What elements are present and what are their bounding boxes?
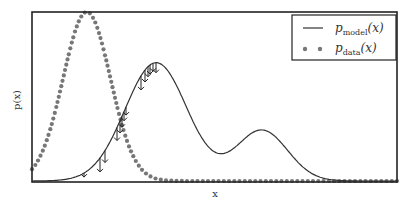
pdata-point bbox=[65, 57, 69, 61]
pdata-point bbox=[33, 163, 37, 167]
pdata-point bbox=[79, 14, 83, 18]
pdata-point bbox=[38, 154, 42, 158]
down-arrow-icon bbox=[153, 63, 159, 73]
pdata-point bbox=[71, 35, 75, 39]
pdata-point bbox=[153, 176, 157, 180]
pdata-point bbox=[51, 117, 55, 121]
pdata-point bbox=[148, 174, 152, 178]
pdata-point bbox=[46, 133, 50, 137]
down-arrow-icon bbox=[114, 128, 120, 141]
pdata-point bbox=[117, 112, 121, 116]
pdata-point bbox=[159, 178, 163, 182]
pdata-point bbox=[73, 29, 77, 33]
down-arrow-icon bbox=[102, 151, 108, 163]
legend-data-arg: (x) bbox=[361, 41, 377, 55]
pdata-point bbox=[144, 171, 148, 175]
pdata-point bbox=[129, 149, 133, 153]
pdata-point bbox=[54, 105, 58, 109]
pdata-point bbox=[68, 46, 72, 50]
pdata-point bbox=[62, 73, 66, 77]
pdata-point bbox=[113, 96, 117, 100]
pdata-point bbox=[53, 111, 57, 115]
pdata-point bbox=[50, 122, 54, 126]
pdata-point bbox=[107, 69, 111, 73]
pdata-point bbox=[48, 127, 52, 131]
pdata-point bbox=[112, 91, 116, 95]
pdata-point bbox=[127, 144, 131, 148]
legend-data-dot-icon bbox=[303, 47, 307, 51]
pdata-point bbox=[58, 89, 62, 93]
pdata-point bbox=[36, 158, 40, 162]
pdata-point bbox=[70, 41, 74, 45]
pdata-point bbox=[63, 68, 67, 72]
pdata-point bbox=[103, 53, 107, 57]
pdata-point bbox=[101, 47, 105, 51]
pdata-point bbox=[59, 84, 63, 88]
legend: pmodel(x) pdata(x) bbox=[292, 15, 396, 60]
legend-model-arg: (x) bbox=[368, 21, 384, 35]
pdata-point bbox=[108, 74, 112, 78]
pdata-point bbox=[123, 134, 127, 138]
pdata-point bbox=[95, 26, 99, 30]
pdata-point bbox=[98, 36, 102, 40]
pdata-point bbox=[67, 52, 71, 56]
pdata-point bbox=[110, 85, 114, 89]
pdata-point bbox=[57, 95, 61, 99]
x-axis-label: x bbox=[212, 188, 218, 199]
pdata-point bbox=[131, 154, 135, 158]
pdata-point bbox=[100, 41, 104, 45]
pdata-point bbox=[125, 139, 129, 143]
pdata-point bbox=[64, 63, 68, 67]
y-axis-label: p(x) bbox=[11, 90, 22, 110]
pdata-point bbox=[105, 64, 109, 68]
legend-model-sub: model bbox=[343, 28, 368, 37]
pdata-point bbox=[60, 79, 64, 83]
pdata-point bbox=[104, 58, 108, 62]
pdata-point bbox=[77, 19, 81, 23]
pdata-point bbox=[137, 164, 141, 168]
pdata-point bbox=[97, 31, 101, 35]
legend-data-sub: data bbox=[343, 48, 361, 57]
pdata-point bbox=[93, 20, 97, 24]
pdata-point bbox=[115, 106, 119, 110]
legend-data-dot-icon bbox=[318, 47, 322, 51]
pdata-point bbox=[109, 80, 113, 84]
pdata-point bbox=[41, 149, 45, 153]
pdata-point bbox=[75, 24, 79, 28]
down-arrow-icon bbox=[138, 76, 144, 90]
pdata-point bbox=[43, 144, 47, 148]
pmodel-series bbox=[32, 63, 397, 181]
pdata-point bbox=[91, 16, 95, 20]
pdata-point bbox=[55, 100, 59, 104]
pdata-point bbox=[45, 138, 49, 142]
pdata-point bbox=[140, 168, 144, 172]
chart: pmodel(x) pdata(x) x p(x) bbox=[0, 0, 410, 206]
pdata-point bbox=[134, 159, 138, 163]
pdata-point bbox=[114, 101, 118, 105]
